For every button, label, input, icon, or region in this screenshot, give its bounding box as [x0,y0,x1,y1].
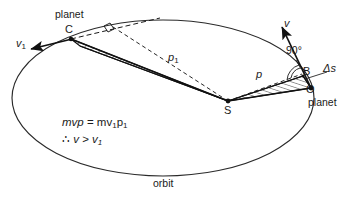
label-distance-p: p [256,69,262,80]
equation-conclusion: ∴ v > v1 [62,134,102,147]
equation-rhs-sub2: 1 [123,121,127,130]
label-angle-90: 90° [286,45,302,56]
conclusion-gt: > [79,133,92,145]
equation-rhs-mv: mv [97,116,112,128]
label-p1-subscript: 1 [174,56,178,65]
diagram-canvas: planet C v1 p1 S p v 90° B Δs O planet o… [0,0,347,200]
point-c-dot [69,37,74,42]
equation-angular-momentum: mvp = mv1p1 [62,117,128,130]
conclusion-v1-subscript: 1 [98,138,102,147]
velocity-vector-v1 [31,39,72,49]
equation-lhs: mvp [62,116,84,128]
label-point-s: S [224,105,231,116]
label-point-b: B [303,66,310,77]
label-delta-s: Δs [323,63,336,74]
point-s-dot [226,99,231,104]
label-v1-subscript: 1 [22,42,26,51]
label-planet-right: planet [308,97,337,108]
therefore-symbol: ∴ [62,133,73,145]
label-distance-p1: p1 [168,52,179,65]
kepler-diagram-svg [0,0,347,200]
radius-cprime-to-s [80,46,228,101]
label-orbit: orbit [153,178,173,189]
equation-equals: = [84,116,97,128]
label-velocity-v: v [284,18,290,29]
label-point-c: C [65,24,73,35]
label-point-o: O [306,84,315,95]
label-planet-top: planet [55,9,84,20]
label-velocity-v1: v1 [16,38,26,51]
